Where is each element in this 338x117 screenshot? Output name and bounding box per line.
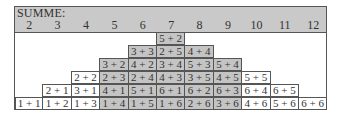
sum-cell: 2 + 4	[128, 71, 157, 84]
sum-cell: 4 + 6	[241, 97, 270, 110]
sum-label: 10	[242, 19, 270, 32]
sum-cell: 4 + 3	[156, 71, 185, 84]
sum-label: 4	[72, 19, 100, 32]
sum-cell: 6 + 1	[156, 84, 185, 97]
sum-cell: 5 + 6	[270, 97, 299, 110]
sum-cell: 6 + 6	[298, 97, 327, 110]
sum-cell: 4 + 1	[99, 84, 128, 97]
sum-cell: 6 + 3	[213, 84, 242, 97]
sum-cell: 5 + 2	[156, 32, 185, 45]
sum-cell: 2 + 1	[42, 84, 71, 97]
sum-cell: 6 + 2	[184, 84, 213, 97]
sum-label: 12	[299, 19, 327, 32]
sum-label: 7	[157, 19, 185, 32]
sum-cell: 5 + 5	[241, 71, 270, 84]
sum-cell: 1 + 1	[15, 97, 43, 110]
sum-cell: 2 + 2	[71, 71, 100, 84]
sum-cell: 3 + 3	[128, 45, 157, 58]
sum-label: 6	[129, 19, 157, 32]
sum-cell: 5 + 1	[128, 84, 157, 97]
sum-cell: 4 + 4	[184, 45, 213, 58]
sum-cell: 3 + 1	[71, 84, 100, 97]
sum-cell: 1 + 4	[99, 97, 128, 110]
sum-cell: 6 + 4	[241, 84, 270, 97]
sum-cell: 3 + 2	[99, 58, 128, 71]
table-header: SUMME: 23456789101112	[15, 7, 326, 33]
sum-cell: 4 + 2	[128, 58, 157, 71]
sum-label: 5	[100, 19, 128, 32]
sum-cell: 2 + 6	[184, 97, 213, 110]
sum-cell: 3 + 4	[156, 58, 185, 71]
sum-label: 11	[271, 19, 299, 32]
sum-label: 2	[15, 19, 43, 32]
sum-cell: 6 + 5	[270, 84, 299, 97]
sum-label: 8	[185, 19, 213, 32]
sum-cell: 1 + 6	[156, 97, 185, 110]
sum-cell: 2 + 5	[156, 45, 185, 58]
sum-cell: 3 + 6	[213, 97, 242, 110]
sum-cell: 2 + 3	[99, 71, 128, 84]
sum-cell: 5 + 4	[213, 58, 242, 71]
sum-cell: 3 + 5	[184, 71, 213, 84]
sum-cell: 1 + 2	[42, 97, 71, 110]
sum-cell: 4 + 5	[213, 71, 242, 84]
sum-cell: 1 + 5	[128, 97, 157, 110]
sum-label: 3	[43, 19, 71, 32]
dice-sum-table: SUMME: 23456789101112 5 + 23 + 32 + 54 +…	[14, 6, 327, 110]
sum-cell: 1 + 3	[71, 97, 100, 110]
sum-label: 9	[214, 19, 242, 32]
sum-cell: 5 + 3	[184, 58, 213, 71]
